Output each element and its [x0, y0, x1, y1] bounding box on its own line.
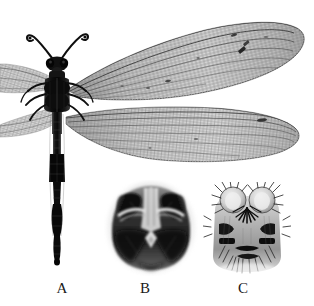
caption-c: C — [228, 281, 258, 296]
caption-a: A — [47, 281, 77, 296]
panel-c-genitalia — [203, 182, 291, 276]
figure-plate: A B C — [0, 0, 314, 306]
caption-b: B — [130, 281, 160, 296]
abdomen — [49, 112, 65, 266]
right-hindwing — [55, 99, 314, 174]
right-forewing — [55, 14, 314, 109]
head — [46, 57, 68, 74]
head-ventral-illustration — [104, 180, 198, 276]
antennae — [27, 34, 88, 58]
genitalia-setose-illustration — [203, 182, 291, 276]
panel-b-head-ventral — [104, 180, 198, 276]
